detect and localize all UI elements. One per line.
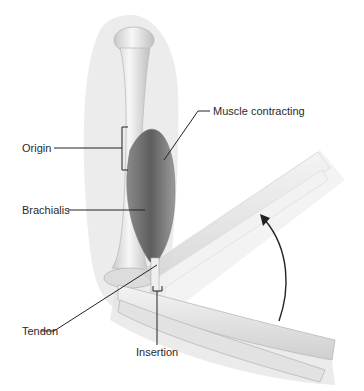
elbow-flexion-diagram: Origin Muscle contracting Brachialis Ten… <box>0 0 364 391</box>
origin-label: Origin <box>22 142 51 154</box>
insertion-label: Insertion <box>136 346 178 358</box>
tendon <box>151 258 159 292</box>
tendon-label: Tendon <box>22 325 58 337</box>
muscle-contracting-label: Muscle contracting <box>213 105 305 117</box>
brachialis-label: Brachialis <box>22 204 70 216</box>
